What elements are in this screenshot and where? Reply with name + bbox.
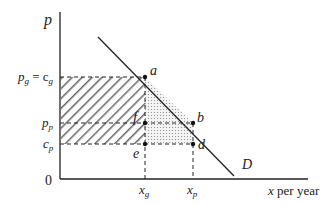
x-tick-xp: xp [187,183,197,199]
point-label-f: f [133,110,137,125]
y-tick-cp: cp [43,137,53,153]
point-e [143,142,147,146]
y-tick-pp: pp [42,116,53,132]
y-axis-label: p [44,12,52,28]
point-label-d: d [198,138,205,152]
y-tick-pg: pg = cg [18,70,53,86]
point-a [143,75,147,79]
curve-label-d: D [242,158,252,172]
point-d [191,142,195,146]
point-b [191,121,195,125]
point-label-b: b [197,111,204,125]
dotted-region [145,77,193,144]
point-label-e: e [133,147,139,161]
origin-label: 0 [45,174,52,188]
point-f [143,121,147,125]
x-axis-label: x per year [268,184,319,197]
point-label-a: a [150,64,157,78]
x-tick-xg: xg [139,183,149,199]
